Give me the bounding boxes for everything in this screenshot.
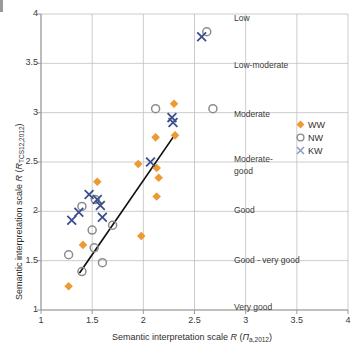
scatter-plot-figure: 11.522.533.54 11.522.533.54 LowLow-moder… <box>0 0 362 358</box>
legend-diamond-icon <box>294 118 307 131</box>
category-label: Very good <box>234 303 272 313</box>
data-point-nw <box>65 251 73 259</box>
x-axis-title: Semantic interpretation scale R (Πa,2012… <box>30 332 354 343</box>
legend-label: WW <box>308 120 325 130</box>
data-point-kw <box>67 216 76 225</box>
data-point-ww <box>137 232 146 241</box>
data-point-kw <box>197 32 206 41</box>
data-point-ww <box>152 192 161 201</box>
x-tick-label: 3 <box>236 315 256 325</box>
legend-label: NW <box>308 133 323 143</box>
chart-legend: WWNWKW <box>294 118 325 157</box>
x-tick-label: 2 <box>133 315 153 325</box>
data-point-ww <box>151 133 160 142</box>
data-point-nw <box>209 105 217 113</box>
y-tick-label: 3 <box>20 107 38 117</box>
plot-canvas <box>0 0 362 358</box>
legend-x-icon <box>294 144 307 157</box>
legend-item-kw[interactable]: KW <box>294 144 325 157</box>
legend-item-ww[interactable]: WW <box>294 118 325 131</box>
x-tick-label: 2.5 <box>185 315 205 325</box>
data-point-nw <box>98 259 106 267</box>
data-point-ww <box>154 173 163 182</box>
data-point-ww <box>64 282 73 291</box>
y-axis-title: Semantic interpretation scale R (RTCS12,… <box>14 123 25 300</box>
legend-item-nw[interactable]: NW <box>294 131 325 144</box>
data-point-ww <box>134 160 143 169</box>
data-point-ww <box>93 177 102 186</box>
y-tick-label: 3.5 <box>20 57 38 67</box>
x-tick-label: 4 <box>338 315 358 325</box>
x-tick-label: 1 <box>31 315 51 325</box>
x-tick-label: 3.5 <box>287 315 307 325</box>
data-point-ww <box>170 99 179 108</box>
data-point-nw <box>152 105 160 113</box>
x-tick-label: 1.5 <box>82 315 102 325</box>
category-label: Moderate <box>234 110 270 120</box>
category-label: Low-moderate <box>234 61 288 71</box>
data-point-ww <box>79 241 88 250</box>
category-label: Moderate- <box>234 155 273 165</box>
data-point-kw <box>98 213 107 222</box>
category-label: Good <box>234 206 255 216</box>
legend-circle-icon <box>294 131 307 144</box>
y-tick-label: 4 <box>20 8 38 18</box>
y-tick-label: 1 <box>20 304 38 314</box>
category-label: Low <box>234 14 250 24</box>
legend-label: KW <box>308 146 323 156</box>
category-label: Good - very good <box>234 256 300 266</box>
category-label: good <box>234 167 253 177</box>
